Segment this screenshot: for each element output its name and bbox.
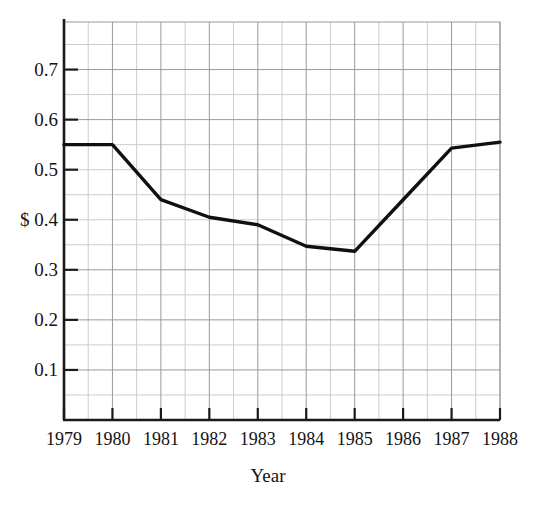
x-axis-tick-label: 1981 (143, 430, 179, 448)
y-axis-ticks (64, 70, 78, 370)
x-axis-tick-label: 1979 (46, 430, 82, 448)
x-axis-tick-label: 1988 (482, 430, 518, 448)
x-axis-tick-label: 1987 (434, 430, 470, 448)
x-axis-title: Year (0, 466, 536, 485)
x-axis-tick-labels: 1979198019811982198319841985198619871988 (0, 430, 536, 460)
y-axis-tick-label: 0.1 (34, 360, 58, 379)
line-chart-figure: 0.70.60.5$ 0.40.30.20.1 1979198019811982… (0, 0, 536, 506)
y-axis-tick-label: 0.6 (34, 110, 58, 129)
x-axis-tick-label: 1985 (337, 430, 373, 448)
y-axis-tick-label: 0.3 (34, 260, 58, 279)
x-axis-tick-label: 1986 (385, 430, 421, 448)
x-axis-tick-label: 1983 (240, 430, 276, 448)
y-axis-tick-label: $ 0.4 (20, 210, 58, 229)
y-axis-tick-label: 0.2 (34, 310, 58, 329)
y-axis-tick-label: 0.7 (34, 60, 58, 79)
minor-gridlines (64, 22, 500, 420)
x-axis-tick-label: 1984 (288, 430, 324, 448)
x-axis-tick-label: 1980 (94, 430, 130, 448)
y-axis-tick-label: 0.5 (34, 160, 58, 179)
x-axis-tick-label: 1982 (191, 430, 227, 448)
